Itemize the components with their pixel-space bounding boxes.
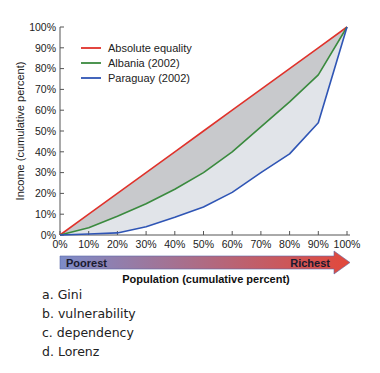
lorenz-curve-chart: 0%10%20%30%40%50%60%70%80%90%100%0%10%20… [0,0,380,285]
x-tick-label: 80% [279,238,300,250]
x-tick-label: 100% [334,238,361,250]
x-tick-label: 70% [250,238,271,250]
y-tick-label: 40% [35,146,56,158]
option-c[interactable]: c. dependency [42,323,136,342]
option-a[interactable]: a. Gini [42,285,136,304]
y-tick-label: 70% [35,83,56,95]
poorest-label: Poorest [66,257,107,269]
legend: Absolute equalityAlbania (2002)Paraguay … [81,42,192,84]
y-tick-label: 100% [29,21,56,33]
option-letter: c. [42,325,53,340]
x-tick-label: 30% [136,238,157,250]
x-tick-label: 20% [107,238,128,250]
option-letter: d. [42,344,54,359]
y-tick-label: 20% [35,187,56,199]
y-axis-title: Income (cumulative percent) [14,62,26,201]
answer-options: a. Gini b. vulnerability c. dependency d… [42,285,136,361]
x-tick-label: 60% [222,238,243,250]
legend-label: Paraguay (2002) [108,72,190,84]
x-tick-label: 40% [164,238,185,250]
option-b[interactable]: b. vulnerability [42,304,136,323]
option-text: dependency [57,325,134,340]
x-tick-label: 90% [308,238,329,250]
option-letter: a. [42,287,54,302]
y-tick-label: 50% [35,125,56,137]
option-text: vulnerability [58,306,136,321]
x-tick-label: 0% [52,238,67,250]
x-tick-label: 50% [193,238,214,250]
x-tick-label: 10% [78,238,99,250]
x-axis-title: Population (cumulative percent) [122,273,290,285]
legend-label: Albania (2002) [108,57,180,69]
y-tick-label: 10% [35,208,56,220]
option-text: Lorenz [58,344,99,359]
legend-label: Absolute equality [108,42,192,54]
y-tick-label: 30% [35,166,56,178]
y-tick-label: 80% [35,62,56,74]
option-letter: b. [42,306,54,321]
richest-label: Richest [290,257,330,269]
y-tick-label: 90% [35,42,56,54]
option-d[interactable]: d. Lorenz [42,342,136,361]
y-tick-label: 60% [35,104,56,116]
population-arrow: Poorest Richest [60,251,350,274]
option-text: Gini [58,287,83,302]
